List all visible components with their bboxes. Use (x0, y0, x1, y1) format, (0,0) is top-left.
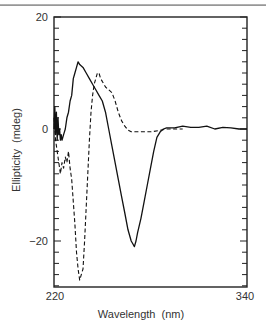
y-tick-label-top: 20 (36, 11, 48, 23)
x-tick-label-right: 340 (236, 290, 254, 302)
x-axis-title: Wavelength (nm) (98, 308, 184, 320)
series-layer (54, 62, 247, 280)
cd-spectrum-chart: 20 0 −20 220 340 Wavelength (nm) Ellipti… (0, 0, 266, 326)
y-axis-title: Ellipticity (mdeg) (10, 108, 22, 192)
y-axis-ticks (54, 17, 247, 286)
x-tick-label-left: 220 (46, 290, 64, 302)
plot-border (54, 17, 247, 287)
series-solid-line (54, 62, 247, 247)
y-tick-label-bottom: −20 (29, 235, 48, 247)
y-tick-label-zero: 0 (42, 123, 48, 135)
plot-frame (54, 17, 247, 287)
